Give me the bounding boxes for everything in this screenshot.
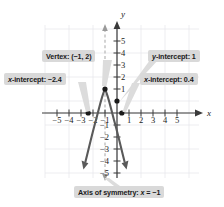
parabola-graph-figure: x y −5 −4 −3 −2 −1 1 2 3 4 5 5 4 3 2 1 −…	[0, 0, 224, 207]
svg-text:−5: −5	[52, 115, 61, 125]
callout-axis-of-symmetry: Axis of symmetry: x = −1	[74, 186, 164, 198]
svg-text:−1: −1	[100, 120, 109, 130]
callout-y-intercept: y-intercept: 1	[148, 50, 200, 62]
callout-x-intercept-left-rest: -intercept: −2.4	[12, 75, 62, 84]
svg-text:−4: −4	[100, 156, 110, 166]
callout-x-intercept-right-rest: -intercept: 0.4	[148, 75, 194, 84]
svg-text:−4: −4	[64, 115, 74, 125]
callout-vertex: Vertex: (−1, 2)	[42, 50, 95, 62]
svg-text:1: 1	[121, 84, 125, 94]
callout-axis-rest: = −1	[144, 188, 160, 197]
point-y-intercept	[114, 98, 119, 103]
x-axis-label: x	[206, 108, 211, 118]
svg-text:5: 5	[121, 36, 125, 46]
y-axis-label: y	[120, 9, 125, 19]
svg-text:−3: −3	[76, 115, 85, 125]
callout-axis-prefix: Axis of symmetry:	[78, 188, 141, 197]
svg-text:3: 3	[121, 60, 125, 70]
callout-y-intercept-rest: -intercept: 1	[156, 52, 196, 61]
svg-text:−2: −2	[100, 132, 109, 142]
chart-background	[0, 0, 224, 207]
svg-text:2: 2	[139, 115, 143, 125]
callout-x-intercept-right: x-intercept: 0.4	[140, 73, 198, 85]
svg-text:5: 5	[175, 115, 179, 125]
svg-text:1: 1	[127, 115, 131, 125]
callout-x-intercept-left: x-intercept: −2.4	[4, 73, 66, 85]
point-vertex	[102, 86, 107, 91]
svg-text:2: 2	[121, 72, 125, 82]
svg-text:3: 3	[151, 115, 155, 125]
svg-text:−3: −3	[100, 144, 109, 154]
svg-text:−5: −5	[100, 168, 109, 178]
callout-vertex-text: Vertex: (−1, 2)	[46, 52, 91, 61]
